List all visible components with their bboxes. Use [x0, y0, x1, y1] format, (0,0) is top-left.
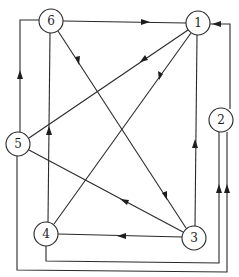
arrowhead-icon: [117, 233, 126, 239]
arrowhead-icon: [141, 19, 150, 25]
node-2: 2: [209, 108, 233, 132]
node-label: 2: [217, 113, 225, 127]
edge-6-to-3: [58, 31, 186, 228]
node-1: 1: [186, 11, 210, 35]
edge-2-to-1: [210, 21, 230, 109]
node-label: 3: [190, 231, 198, 245]
edge-1-to-5: [29, 30, 188, 138]
arrowhead-icon: [192, 139, 198, 148]
node-3: 3: [182, 226, 206, 250]
edge-3-to-4: [58, 233, 182, 239]
node-label: 4: [42, 227, 50, 241]
edge-3-to-1: [192, 35, 198, 226]
arrowhead-icon: [224, 184, 230, 193]
arrowhead-icon: [46, 126, 52, 135]
node-label: 1: [194, 16, 202, 30]
node-6: 6: [39, 9, 63, 33]
directed-graph: 1 2 3 4 5 6: [0, 0, 239, 277]
node-label: 6: [47, 14, 55, 28]
edge-3-to-5: [29, 150, 183, 232]
arrowhead-icon: [216, 184, 222, 193]
arrowhead-icon: [120, 199, 129, 205]
node-label: 5: [14, 137, 22, 151]
arrowhead-icon: [212, 21, 221, 27]
edge-1-to-4: [54, 33, 191, 224]
edge-6-to-1: [63, 19, 186, 25]
edge-4-to-6: [46, 33, 52, 222]
node-5: 5: [6, 132, 30, 156]
arrowhead-icon: [140, 55, 148, 62]
arrowhead-icon: [17, 70, 23, 79]
node-4: 4: [34, 222, 58, 246]
edge-5-to-6: [17, 20, 39, 132]
